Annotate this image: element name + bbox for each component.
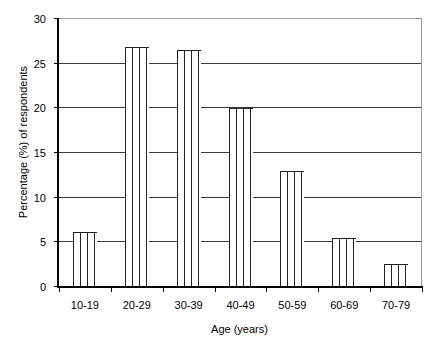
gridline [59, 63, 422, 64]
y-tick: 15 [54, 152, 59, 153]
x-tick [266, 286, 267, 292]
x-tick [370, 286, 371, 292]
y-tick: 10 [54, 197, 59, 198]
x-tick [163, 286, 164, 292]
x-tick [318, 286, 319, 292]
y-tick-label: 25 [16, 56, 46, 72]
y-tick-label: 15 [16, 145, 46, 161]
y-tick: 5 [54, 241, 59, 242]
x-tick [422, 286, 423, 292]
x-tick [59, 286, 60, 292]
y-tick-label: 10 [16, 190, 46, 206]
x-tick-label: 30-39 [163, 298, 215, 312]
x-tick-label: 50-59 [266, 298, 318, 312]
bar-10-19 [73, 232, 97, 286]
y-tick: 25 [54, 63, 59, 64]
bar-50-59 [280, 171, 304, 286]
gridline [59, 18, 422, 19]
plot-area: 051015202530 10-1920-2930-3940-4950-5960… [57, 18, 422, 288]
x-axis-title: Age (years) [57, 322, 422, 336]
x-tick-label: 40-49 [215, 298, 267, 312]
bar-60-69 [332, 238, 356, 286]
bar-70-79 [384, 264, 408, 286]
y-tick-label: 5 [16, 234, 46, 250]
y-tick: 30 [54, 18, 59, 19]
bar-40-49 [229, 108, 253, 286]
y-tick-label: 0 [16, 279, 46, 295]
x-tick-label: 10-19 [59, 298, 111, 312]
y-tick-label: 30 [16, 11, 46, 27]
x-tick-label: 70-79 [370, 298, 422, 312]
chart-figure: Percentage (%) of respondents 0510152025… [0, 0, 436, 346]
x-tick [111, 286, 112, 292]
y-tick: 20 [54, 107, 59, 108]
x-tick-label: 20-29 [111, 298, 163, 312]
x-tick-label: 60-69 [318, 298, 370, 312]
bar-20-29 [125, 47, 149, 286]
y-tick-label: 20 [16, 100, 46, 116]
x-tick [215, 286, 216, 292]
bar-30-39 [177, 50, 201, 286]
